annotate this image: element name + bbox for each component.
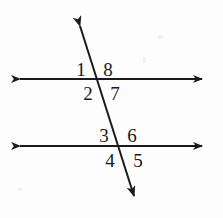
- diagram-canvas: [0, 0, 223, 218]
- angle-label-2: 2: [79, 84, 97, 103]
- angle-label-8: 8: [99, 60, 117, 79]
- angle-label-1: 1: [72, 60, 90, 79]
- angle-label-3: 3: [95, 126, 113, 145]
- angle-label-4: 4: [101, 151, 119, 170]
- angle-label-7: 7: [106, 84, 124, 103]
- angle-label-5: 5: [129, 151, 147, 170]
- geometry-diagram: 1 8 2 7 3 6 4 5: [0, 0, 223, 218]
- angle-label-6: 6: [123, 126, 141, 145]
